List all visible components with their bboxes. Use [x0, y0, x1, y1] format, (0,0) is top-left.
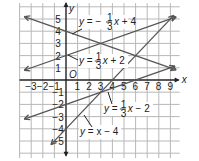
- x-axis-arrow-icon: [175, 78, 180, 83]
- y-axis-arrow-down-icon: [64, 152, 69, 157]
- eq-rest: x + 4: [113, 16, 136, 27]
- y-tick-label: −3: [52, 112, 64, 123]
- eq-text: y = −: [78, 16, 101, 27]
- coordinate-plane: −3−2−1123456789−5−4−3−2−112345xyOy = −13…: [0, 0, 199, 161]
- equation-label-2: y =13x + 2: [78, 51, 128, 71]
- y-tick-label: 2: [55, 51, 61, 62]
- origin-label: O: [69, 69, 77, 80]
- equation-label-3: y =13x − 2: [103, 99, 153, 119]
- frac-den: 3: [107, 21, 113, 32]
- x-tick-label: 8: [156, 81, 162, 92]
- eq-rest: x + 2: [102, 55, 125, 66]
- y-tick-label: 1: [55, 63, 61, 74]
- x-axis-label: x: [181, 74, 188, 85]
- equation-label-1: y = −13x + 4: [78, 12, 136, 32]
- frac-den: 3: [96, 60, 102, 71]
- y-axis-label: y: [68, 3, 75, 14]
- y-axis-arrow-icon: [64, 2, 69, 7]
- x-tick-label: −2: [37, 81, 49, 92]
- y-tick-label: −1: [52, 87, 64, 98]
- equation-label-4: y = x − 4: [79, 125, 121, 139]
- x-tick-label: 7: [144, 81, 150, 92]
- x-tick-label: 2: [86, 81, 92, 92]
- y-tick-label: 5: [55, 14, 61, 25]
- frac-den: 3: [121, 108, 127, 119]
- x-tick-label: 1: [75, 81, 81, 92]
- eq-text: y =: [103, 103, 118, 114]
- eq-text: y = x − 4: [79, 126, 119, 137]
- eq-rest: x − 2: [127, 103, 150, 114]
- x-tick-label: 9: [167, 81, 173, 92]
- x-tick-label: 6: [133, 81, 139, 92]
- y-tick-label: 3: [55, 38, 61, 49]
- x-tick-label: −3: [25, 81, 37, 92]
- eq-text: y =: [78, 55, 93, 66]
